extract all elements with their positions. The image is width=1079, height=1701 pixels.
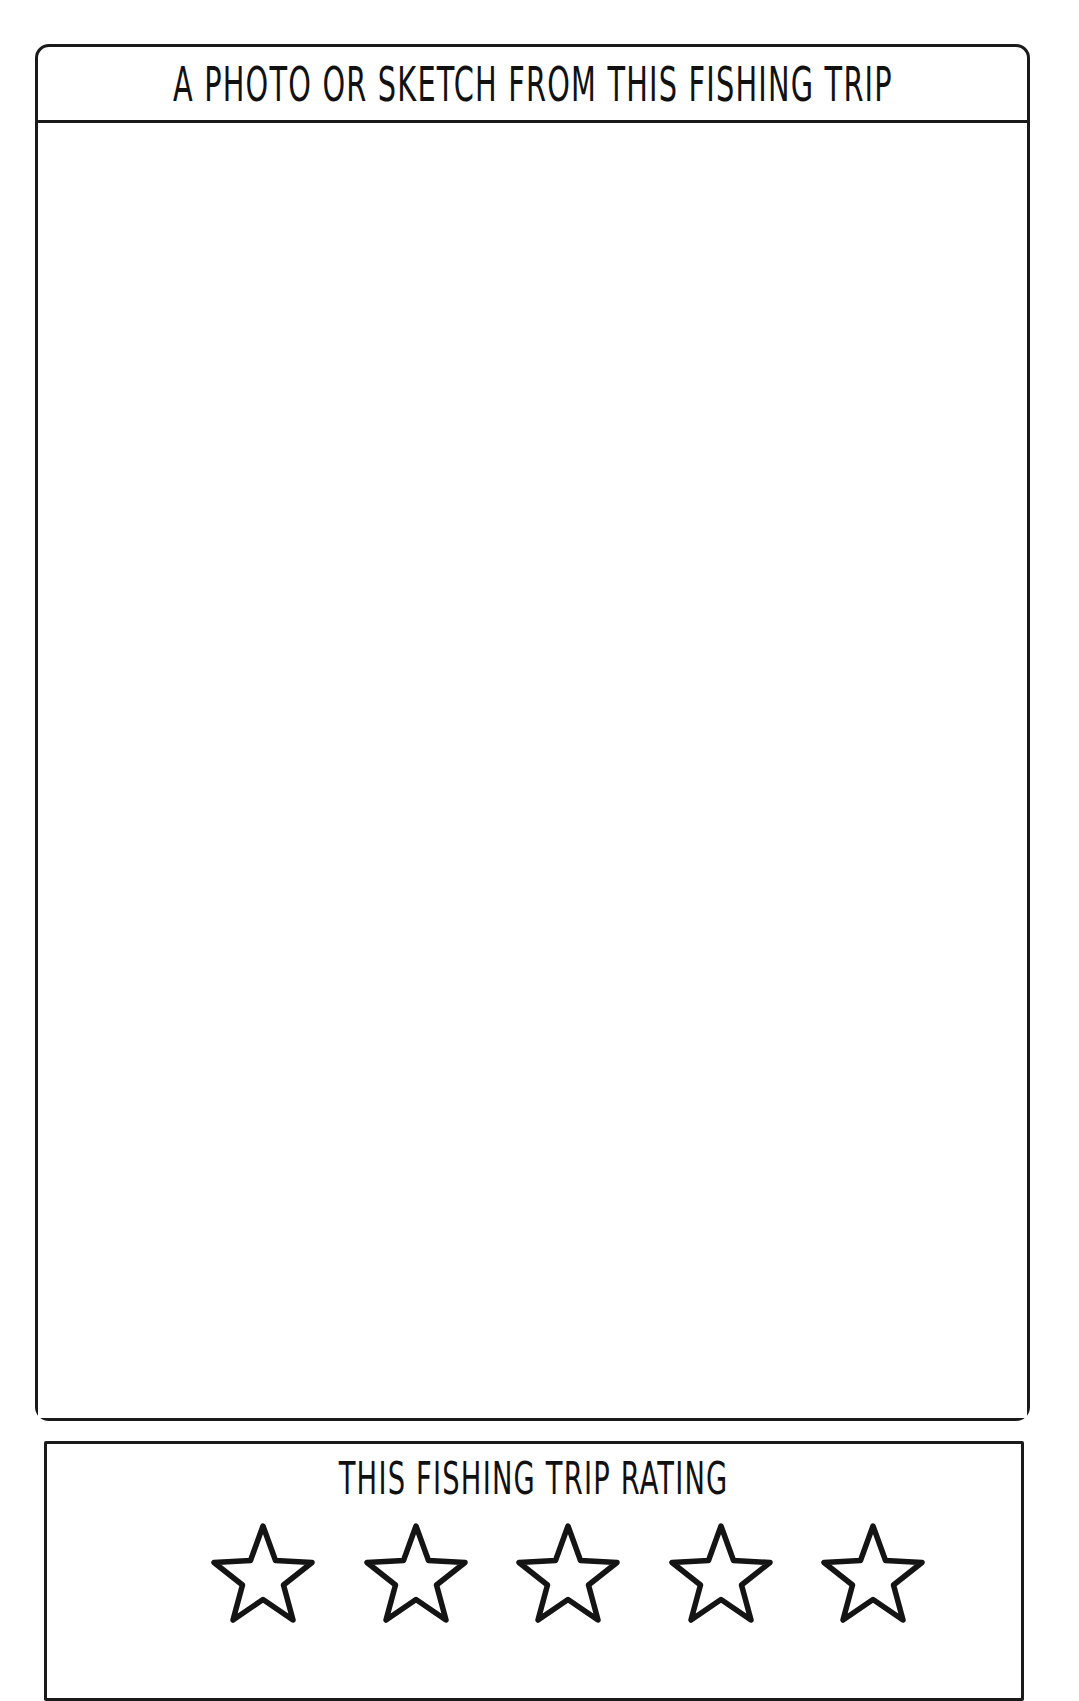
star-rating-control[interactable] [208,1519,928,1627]
trip-rating-panel: THIS FISHING TRIP RATING [44,1441,1024,1701]
photo-sketch-panel: A PHOTO OR SKETCH FROM THIS FISHING TRIP [35,44,1030,1421]
star-outline-icon-3[interactable] [513,1519,623,1627]
star-outline-icon-1[interactable] [208,1519,318,1627]
star-outline-icon-4[interactable] [666,1519,776,1627]
photo-sketch-canvas[interactable] [38,123,1027,1418]
photo-sketch-header: A PHOTO OR SKETCH FROM THIS FISHING TRIP [38,47,1027,123]
trip-rating-title-text: THIS FISHING TRIP RATING [339,1457,729,1502]
photo-sketch-title: A PHOTO OR SKETCH FROM THIS FISHING TRIP [173,60,893,107]
star-outline-icon-5[interactable] [818,1519,928,1627]
trip-rating-title: THIS FISHING TRIP RATING [47,1460,1021,1498]
star-outline-icon-2[interactable] [361,1519,471,1627]
